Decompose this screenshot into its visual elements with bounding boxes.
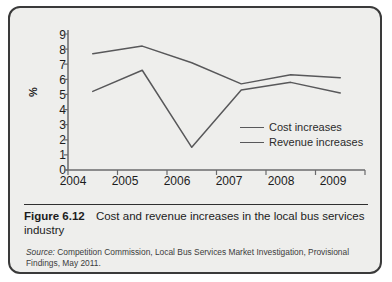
figure-number: Figure 6.12 [24,210,85,222]
legend-item-cost-increases: Cost increases [240,120,363,134]
figure-caption: Figure 6.12 Cost and revenue increases i… [24,209,370,237]
chart-svg [10,8,380,198]
source-prefix-label: Source: [26,247,55,257]
legend-line-swatch-revenue-icon [240,142,264,143]
chart-plot-area: % 9 8 7 6 5 4 3 2 1 0 2004 2005 2006 200… [10,8,380,198]
legend-label-cost-increases: Cost increases [269,121,342,133]
figure-card: % 9 8 7 6 5 4 3 2 1 0 2004 2005 2006 200… [8,6,382,274]
chart-legend: Cost increases Revenue increases [240,120,363,150]
legend-item-revenue-increases: Revenue increases [240,135,363,149]
legend-line-swatch-cost-icon [240,127,264,128]
caption-divider [24,204,368,205]
source-text: Competition Commission, Local Bus Servic… [26,247,349,268]
series-line-cost-increases [93,46,341,84]
legend-label-revenue-increases: Revenue increases [269,136,363,148]
figure-source: Source: Competition Commission, Local Bu… [26,247,370,268]
